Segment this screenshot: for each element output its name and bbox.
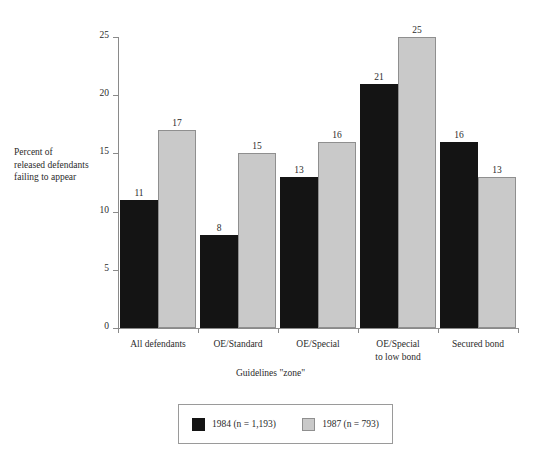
x-axis-tick [438,328,439,333]
x-axis-tick [118,328,119,333]
x-axis-tick [198,328,199,333]
bar: 13 [478,177,516,328]
bar-value-label: 21 [374,72,384,82]
bar: 17 [158,130,196,328]
y-axis-tick-label: 10 [100,205,110,215]
bar-value-label: 16 [332,130,342,140]
y-axis-line [118,37,119,328]
y-axis-tick: 10 [113,212,119,213]
y-axis-tick: 20 [113,95,119,96]
x-axis-category-label: All defendants [118,338,198,351]
plot-area: 0510152025 1181321161715162513 All defen… [118,37,518,328]
x-axis-tick [358,328,359,333]
legend-item: 1984 (n = 1,193) [192,418,276,431]
x-axis-category-label: OE/Special to low bond [358,338,438,363]
legend-label: 1987 (n = 793) [322,419,379,429]
y-axis-tick-label: 25 [100,30,110,40]
y-axis-tick: 25 [113,37,119,38]
x-axis-category-label: OE/Standard [198,338,278,351]
chart-legend: 1984 (n = 1,193)1987 (n = 793) [178,404,393,444]
bar-value-label: 25 [412,25,422,35]
y-axis-tick: 15 [113,153,119,154]
y-axis-tick-label: 5 [104,263,109,273]
bar: 16 [440,142,478,328]
bar-value-label: 11 [134,188,143,198]
bar: 8 [200,235,238,328]
bar-value-label: 16 [454,130,464,140]
bar-chart-figure: Percent of released defendants failing t… [0,0,541,468]
legend-swatch [302,418,315,431]
y-axis-tick-label: 0 [104,321,109,331]
bar: 11 [120,200,158,328]
y-axis-tick: 5 [113,270,119,271]
y-axis-tick-label: 20 [100,88,110,98]
legend-swatch [192,418,205,431]
y-axis-tick-label: 15 [100,146,110,156]
x-axis-title: Guidelines "zone" [0,368,541,378]
bar-value-label: 15 [252,141,262,151]
x-axis-category-label: Secured bond [438,338,518,351]
bar-value-label: 17 [172,118,182,128]
bar: 25 [398,37,436,328]
bar: 21 [360,84,398,328]
x-axis-tick [518,328,519,333]
bar: 15 [238,153,276,328]
bar-value-label: 13 [294,165,304,175]
bar-value-label: 13 [492,165,502,175]
legend-label: 1984 (n = 1,193) [212,419,276,429]
legend-item: 1987 (n = 793) [302,418,379,431]
bar-value-label: 8 [217,223,222,233]
x-axis-line [118,328,518,329]
x-axis-category-label: OE/Special [278,338,358,351]
bar: 13 [280,177,318,328]
bar: 16 [318,142,356,328]
x-axis-tick [278,328,279,333]
